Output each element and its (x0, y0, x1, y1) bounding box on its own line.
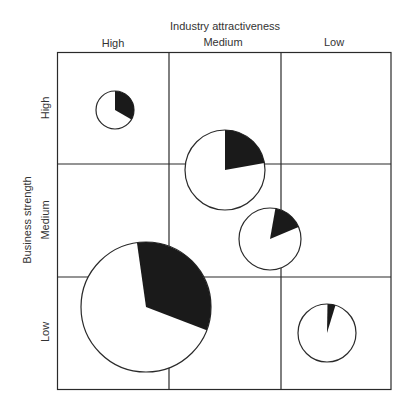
bubble-2 (185, 130, 265, 210)
bubbles-layer (81, 91, 356, 372)
column-label-medium: Medium (203, 36, 242, 48)
column-label-high: High (102, 37, 125, 49)
column-label-low: Low (324, 36, 344, 48)
ge-mckinsey-matrix: Industry attractiveness High Medium Low … (0, 0, 415, 406)
bubble-5 (298, 304, 356, 362)
bubble-share-slice (225, 130, 264, 170)
bubble-4 (81, 242, 211, 372)
y-axis-title: Business strength (21, 176, 33, 263)
bubble-3 (239, 208, 301, 270)
row-label-medium: Medium (39, 200, 51, 239)
row-label-high: High (39, 97, 51, 120)
x-axis-title: Industry attractiveness (170, 20, 281, 32)
bubble-1 (96, 91, 134, 129)
row-label-low: Low (39, 322, 51, 342)
